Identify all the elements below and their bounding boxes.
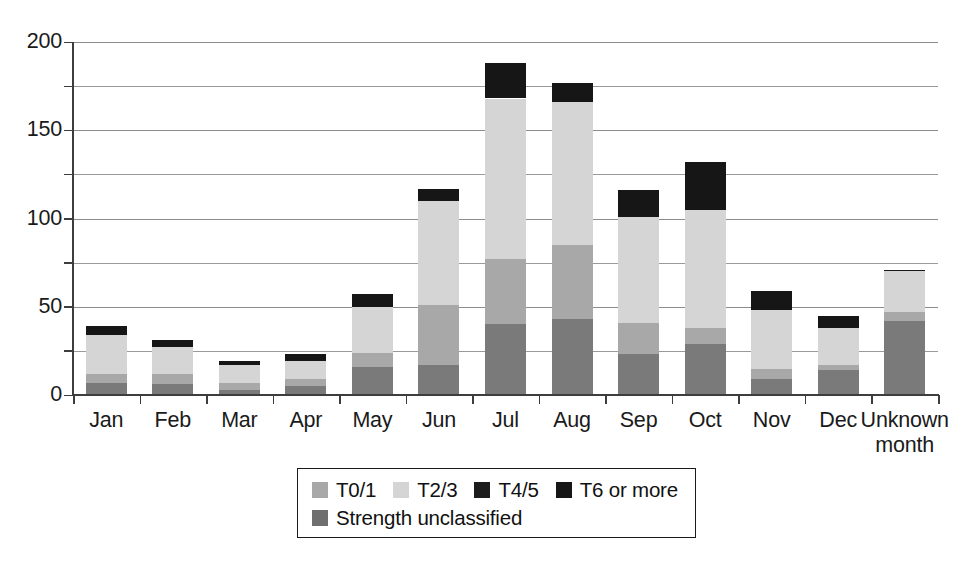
bar-segment [751, 369, 792, 380]
bar-segment [751, 291, 792, 310]
bar-segment [219, 383, 260, 390]
x-tick-mark [406, 395, 408, 404]
bar-segment [418, 305, 459, 365]
bar-segment [685, 328, 726, 344]
legend-item[interactable]: T2/3 [393, 479, 457, 501]
bar-segment [884, 312, 925, 321]
x-tick-mark [938, 395, 940, 404]
y-tick-mark-100 [64, 218, 73, 220]
x-tick-mark [140, 395, 142, 404]
y-tick-mark-0 [64, 395, 73, 397]
x-tick-mark [273, 395, 275, 404]
bar-segment [418, 365, 459, 395]
y-tick-mark-75 [64, 262, 73, 264]
legend-label: T4/5 [498, 479, 538, 501]
y-tick-label-50: 50 [0, 296, 62, 318]
chart-legend: T0/1T2/3T4/5T6 or moreStrength unclassif… [297, 468, 696, 538]
bar-segment [352, 307, 393, 353]
legend-item[interactable]: T0/1 [312, 479, 376, 501]
bar-segment [285, 354, 326, 361]
bar-segment [86, 374, 127, 383]
legend-swatch-t6 [556, 482, 572, 498]
legend-swatch-t45 [474, 482, 490, 498]
legend-item[interactable]: T6 or more [556, 479, 678, 501]
y-tick-mark-125 [64, 174, 73, 176]
bar-segment [685, 162, 726, 210]
y-tick-mark-150 [64, 130, 73, 132]
bar-segment [751, 310, 792, 368]
bar-segment [418, 201, 459, 305]
bar-segment [152, 374, 193, 385]
legend-label: T2/3 [417, 479, 457, 501]
x-tick-mark [472, 395, 474, 404]
legend-item[interactable]: Strength unclassified [312, 507, 522, 529]
bar-segment [818, 370, 859, 395]
legend-row: T0/1T2/3T4/5T6 or more [312, 476, 695, 504]
bar-segment [485, 99, 526, 260]
x-tick-mark [805, 395, 807, 404]
bar-segment [285, 361, 326, 379]
bar-segment [751, 379, 792, 395]
chart-root: 050100150200 JanFebMarAprMayJunJulAugSep… [0, 0, 963, 570]
x-tick-mark [339, 395, 341, 404]
bar-segment [685, 344, 726, 395]
bar-segment [219, 365, 260, 383]
legend-swatch-unclassified [312, 510, 328, 526]
bar-segment [485, 259, 526, 324]
y-tick-mark-175 [64, 86, 73, 88]
x-tick-mark [206, 395, 208, 404]
y-tick-mark-25 [64, 350, 73, 352]
bar-segment [552, 245, 593, 319]
bar-segment [884, 270, 925, 272]
legend-label: T0/1 [336, 479, 376, 501]
bar-segment [884, 321, 925, 395]
x-axis-label-unknown-month: Unknownmonth [850, 408, 960, 458]
x-tick-mark [738, 395, 740, 404]
legend-label: Strength unclassified [336, 507, 522, 529]
y-tick-label-150: 150 [0, 119, 62, 141]
legend-row: Strength unclassified [312, 504, 695, 532]
x-tick-mark [539, 395, 541, 404]
bar-segment [418, 189, 459, 201]
bar-segment [152, 340, 193, 347]
bar-segment [685, 210, 726, 328]
y-tick-label-100: 100 [0, 208, 62, 230]
gridline-200 [73, 42, 938, 43]
x-tick-mark [73, 395, 75, 404]
bar-segment [552, 83, 593, 102]
bar-segment [884, 271, 925, 312]
legend-swatch-t01 [312, 482, 328, 498]
legend-label: T6 or more [580, 479, 678, 501]
legend-swatch-t23 [393, 482, 409, 498]
bar-segment [552, 319, 593, 395]
bar-segment [485, 324, 526, 395]
bar-segment [352, 294, 393, 306]
y-tick-label-200: 200 [0, 31, 62, 53]
bar-segment [86, 326, 127, 335]
y-tick-label-0: 0 [0, 384, 62, 406]
y-tick-mark-200 [64, 42, 73, 44]
bar-segment [818, 328, 859, 365]
bar-segment [618, 323, 659, 355]
bar-segment [86, 335, 127, 374]
bar-segment [552, 102, 593, 245]
bar-segment [485, 63, 526, 98]
legend-item[interactable]: T4/5 [474, 479, 538, 501]
bar-segment [618, 190, 659, 216]
x-axis-line [73, 394, 939, 396]
bar-segment [352, 353, 393, 367]
x-tick-mark [605, 395, 607, 404]
bar-segment [618, 217, 659, 323]
x-tick-mark [672, 395, 674, 404]
y-tick-mark-50 [64, 306, 73, 308]
bar-segment [818, 365, 859, 370]
plot-area [73, 42, 938, 395]
bar-segment [352, 367, 393, 395]
bar-segment [219, 361, 260, 365]
bar-segment [152, 347, 193, 373]
bar-segment [818, 316, 859, 328]
bar-segment [618, 354, 659, 395]
bar-segment [285, 379, 326, 386]
x-tick-mark [871, 395, 873, 404]
